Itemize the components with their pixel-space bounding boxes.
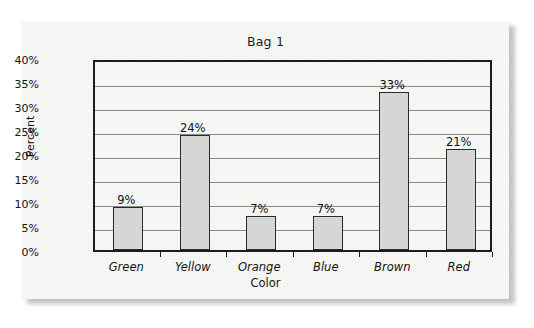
chart-title: Bag 1 xyxy=(22,34,509,49)
gridline xyxy=(95,230,490,231)
plot-area xyxy=(93,60,492,252)
bar-value-label: 9% xyxy=(117,193,135,207)
gridline xyxy=(95,134,490,135)
bar-value-label: 33% xyxy=(379,78,405,92)
bar-value-label: 7% xyxy=(250,202,268,216)
x-tick-label-blue: Blue xyxy=(313,260,338,274)
x-tick-mark xyxy=(226,252,227,257)
screenshot-root: Bag 1 Percent 40%35%30%25%20%15%10%5%0% … xyxy=(0,0,534,328)
gridline xyxy=(95,206,490,207)
y-tick-label: 0% xyxy=(0,246,39,259)
y-tick-label: 30% xyxy=(0,102,39,115)
chart-paper-card: Bag 1 Percent 40%35%30%25%20%15%10%5%0% … xyxy=(22,22,509,299)
y-tick-label: 25% xyxy=(0,126,39,139)
bar-green xyxy=(113,207,143,250)
bar-value-label: 7% xyxy=(317,202,335,216)
y-tick-label: 40% xyxy=(0,54,39,67)
x-axis-label: Color xyxy=(22,276,509,290)
bar-value-label: 24% xyxy=(180,121,206,135)
y-tick-label: 10% xyxy=(0,198,39,211)
bar-yellow xyxy=(180,135,210,250)
x-tick-label-orange: Orange xyxy=(238,260,281,274)
gridline xyxy=(95,86,490,87)
gridline xyxy=(95,182,490,183)
y-tick-label: 35% xyxy=(0,78,39,91)
bar-blue xyxy=(313,216,343,250)
y-tick-label: 15% xyxy=(0,174,39,187)
gridline xyxy=(95,158,490,159)
x-tick-label-brown: Brown xyxy=(374,260,410,274)
bar-value-label: 21% xyxy=(446,135,472,149)
x-tick-label-red: Red xyxy=(448,260,470,274)
x-tick-label-green: Green xyxy=(109,260,144,274)
x-tick-mark xyxy=(426,252,427,257)
y-tick-label: 5% xyxy=(0,222,39,235)
x-tick-mark xyxy=(293,252,294,257)
bar-brown xyxy=(379,92,409,250)
x-tick-mark xyxy=(160,252,161,257)
bar-orange xyxy=(246,216,276,250)
x-tick-mark xyxy=(359,252,360,257)
x-tick-label-yellow: Yellow xyxy=(175,260,211,274)
gridline xyxy=(95,110,490,111)
x-tick-mark xyxy=(492,252,493,257)
y-tick-label: 20% xyxy=(0,150,39,163)
bar-red xyxy=(446,149,476,250)
